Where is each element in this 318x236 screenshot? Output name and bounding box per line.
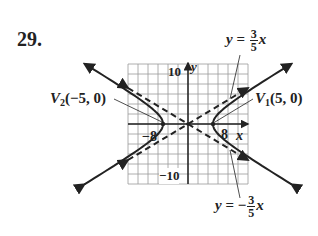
y-axis-label: y bbox=[191, 59, 197, 75]
asymptote-pos-pointer bbox=[230, 55, 240, 99]
asymptote-positive-label: y = 35x bbox=[226, 28, 266, 53]
x-axis-label: x bbox=[236, 128, 243, 144]
hyperbola-graph bbox=[0, 0, 318, 236]
y-tick-top: 10 bbox=[168, 64, 181, 80]
vertex-v1-label: V1(5, 0) bbox=[255, 90, 303, 108]
x-tick-right: 8 bbox=[221, 127, 228, 143]
vertex-v2-label: V2(−5, 0) bbox=[50, 90, 106, 108]
origin bbox=[186, 122, 190, 126]
x-tick-left: −8 bbox=[142, 129, 157, 145]
asymptote-negative-label: y = −35x bbox=[215, 194, 264, 219]
vertex-v2 bbox=[161, 122, 165, 126]
y-tick-bottom: −10 bbox=[159, 168, 179, 184]
vertex-v1 bbox=[211, 122, 215, 126]
